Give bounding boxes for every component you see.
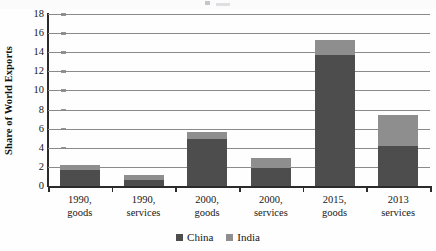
cropped-title-remnant [0, 0, 436, 9]
gridline [48, 14, 430, 15]
y-axis-tick-label: 12 [34, 66, 45, 76]
y-axis-tick-labels: 024681012141618 [18, 0, 48, 200]
x-axis-category-label: 1990, goods [48, 194, 112, 219]
y-axis-title: Share of World Exports [0, 0, 17, 200]
bar-stack[interactable] [315, 40, 355, 186]
legend-label: India [237, 232, 260, 243]
gridline [48, 167, 430, 168]
x-axis-category-label: 2000, goods [175, 194, 239, 219]
y-axis-tick-label: 6 [39, 124, 44, 134]
x-axis-category-label: 2000, services [239, 194, 303, 219]
y-axis-tick-label: 4 [39, 143, 44, 153]
x-axis-tick-mark [175, 186, 177, 192]
stacked-bar-chart: Share of World Exports 024681012141618 1… [0, 0, 436, 251]
bar-segment-india[interactable] [315, 40, 355, 55]
y-axis-title-text: Share of World Exports [3, 46, 14, 155]
x-axis-category-label: 2013 services [366, 194, 430, 219]
gridline [48, 148, 430, 149]
x-axis-tick-mark [303, 186, 305, 192]
gridline [48, 33, 430, 34]
bar-segment-china[interactable] [187, 139, 227, 186]
y-axis-tick-label: 16 [34, 28, 45, 38]
bar-stack[interactable] [251, 158, 291, 186]
gridline [48, 71, 430, 72]
legend-item[interactable]: China [176, 232, 213, 243]
x-axis-category-label: 1990, services [112, 194, 176, 219]
y-axis-tick-label: 2 [39, 162, 44, 172]
y-axis-tick-label: 8 [39, 105, 44, 115]
x-axis: 1990, goods1990, services2000, goods2000… [48, 186, 430, 226]
legend-swatch-icon [176, 234, 183, 241]
bar-segment-india[interactable] [124, 175, 164, 181]
bar-segment-india[interactable] [378, 115, 418, 146]
x-axis-tick-mark [112, 186, 114, 192]
bar-segment-china[interactable] [60, 170, 100, 186]
bar-stack[interactable] [124, 175, 164, 186]
x-axis-tick-mark [366, 186, 368, 192]
legend-swatch-icon [226, 234, 233, 241]
bar-segment-china[interactable] [378, 146, 418, 186]
x-axis-tick-mark [48, 186, 50, 192]
gridline [48, 52, 430, 53]
gridline [48, 110, 430, 111]
title-smudge-glyph [205, 1, 210, 5]
bar-segment-china[interactable] [315, 55, 355, 186]
bar-stack[interactable] [60, 165, 100, 187]
bar-stack[interactable] [187, 132, 227, 186]
x-axis-tick-mark [430, 186, 432, 192]
bar-stack[interactable] [378, 115, 418, 186]
legend-label: China [187, 232, 213, 243]
title-smudge-glyph-secondary [216, 3, 230, 6]
chart-legend: ChinaIndia [0, 232, 436, 243]
bar-segment-india[interactable] [60, 165, 100, 170]
bar-segment-india[interactable] [251, 158, 291, 169]
y-axis-tick-label: 10 [34, 85, 45, 95]
y-axis-tick-label: 14 [34, 47, 45, 57]
y-axis-tick-label: 18 [34, 9, 45, 19]
bar-segment-india[interactable] [187, 132, 227, 140]
gridline [48, 90, 430, 91]
plot-area [48, 14, 430, 186]
gridline [48, 129, 430, 130]
bar-segment-china[interactable] [251, 168, 291, 186]
x-axis-tick-mark [239, 186, 241, 192]
y-axis-tick-label: 0 [39, 181, 44, 191]
legend-item[interactable]: India [226, 232, 260, 243]
x-axis-category-label: 2015, goods [303, 194, 367, 219]
